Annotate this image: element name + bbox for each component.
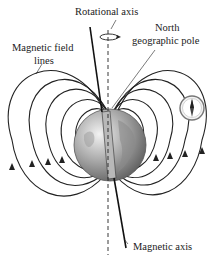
rotational-axis-label: Rotational axis <box>75 6 138 17</box>
field-lines-label-1: Magnetic field <box>12 42 74 53</box>
compass-icon <box>180 96 204 120</box>
north-pole-label-2: geographic pole <box>132 35 199 46</box>
north-pole-label-1: North <box>155 22 180 33</box>
magnetic-axis-label: Magnetic axis <box>133 241 192 252</box>
magnetic-field-diagram: Rotational axis North geographic pole Ma… <box>0 0 216 260</box>
magnetic-axis-line-top <box>90 27 102 112</box>
field-lines-label-2: lines <box>34 55 54 66</box>
rotation-arrow-icon <box>100 34 118 40</box>
magnetic-axis-line-bottom <box>114 178 126 248</box>
